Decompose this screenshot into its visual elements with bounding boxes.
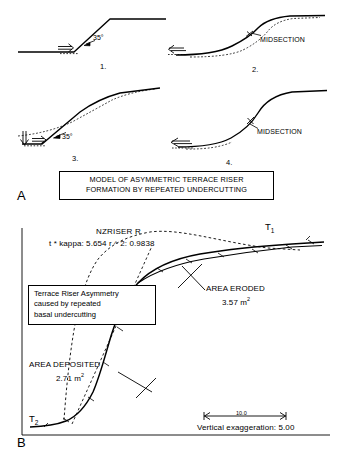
terrace-t1-label: T1 [265,222,274,234]
chart-axes [22,228,330,435]
area-eroded-value: 3.57 m2 [222,296,250,308]
survey-point-ticks [63,240,314,422]
area-eroded-leader [182,266,205,290]
terrace-t2-label: T2 [29,414,38,426]
panel-b-letter: B [17,436,26,451]
area-deposited-exponent: 2 [81,372,84,378]
scale-bar-length-label: 10.0 [236,410,247,416]
terrace-t2-subscript: 2 [35,419,39,426]
fit-equation: t * kappa: 5.654 r ^ 2: 0.9838 [49,240,155,249]
panel-b-chart [0,0,337,468]
area-deposited-leader [118,372,152,392]
area-eroded-exponent: 2 [247,296,250,302]
t1-tick [306,236,310,240]
panel-b-legend-box: Terrace Riser Asymmetry caused by repeat… [28,285,156,325]
terrace-t1-subscript: 1 [271,227,275,234]
measured-profile [30,242,324,427]
figure-root: 35° 1. MIDSECTION 2. 35° 3. MIDSECTION 4… [0,0,337,468]
vertical-exaggeration-label: Vertical exaggeration: 5.00 [197,424,294,433]
legend-line-2: caused by repeated [34,299,150,309]
legend-line-3: basal undercutting [34,310,150,320]
area-eroded-cross [178,264,202,288]
fit-curve-dashed [64,231,300,420]
area-deposited-cross [136,378,156,398]
legend-line-1: Terrace Riser Asymmetry [34,289,150,299]
area-deposited-label: AREA DEPOSITED [29,361,100,370]
area-deposited-value: 2.71 m2 [56,372,84,384]
profile-title: NZRISER R [96,228,141,237]
area-eroded-label: AREA ERODED [206,285,265,294]
